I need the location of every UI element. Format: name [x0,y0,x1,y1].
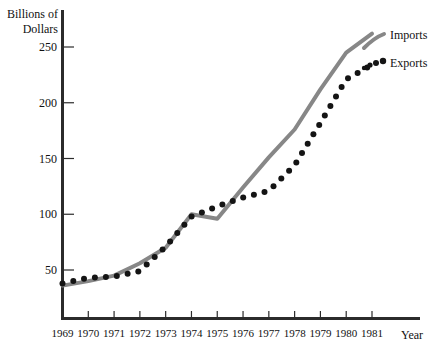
exports-data-dot [60,280,66,286]
exports-data-dot [262,189,268,195]
exports-data-dot [278,176,284,182]
exports-data-dot [174,230,180,236]
chart-container: Billions of Dollars 50100150200250 19691… [0,0,434,354]
x-axis-ticks: 1969197019711972197319741975197619771978… [52,311,384,339]
exports-data-dot [181,222,187,228]
y-tick-label: 150 [39,152,57,166]
legend-exports-dot-swatch [362,58,386,70]
x-tick-label: 1979 [309,327,332,339]
exports-data-dot [293,160,299,166]
exports-data-dot [160,247,166,253]
exports-data-dot [305,141,311,147]
exports-data-dot [271,183,277,189]
y-axis-title-line2: Dollars [23,22,59,36]
y-axis-title-line1: Billions of [7,7,58,21]
exports-data-dot [322,112,328,118]
exports-data-dot [103,274,109,280]
x-tick-label: 1980 [335,327,358,339]
exports-data-dot [251,192,257,198]
y-tick-label: 200 [39,96,57,110]
exports-data-dot [327,103,333,109]
exports-data-dot [286,168,292,174]
exports-data-dot [339,84,345,90]
exports-series-dots [60,65,371,287]
exports-data-dot [345,75,351,81]
exports-data-dot [81,276,87,282]
exports-data-dot [144,262,150,268]
exports-data-dot [299,150,305,156]
x-tick-label: 1976 [232,327,255,339]
x-tick-label: 1974 [180,327,203,339]
exports-data-dot [189,213,195,219]
exports-data-dot [135,269,141,275]
exports-data-dot [152,254,158,260]
exports-data-dot [114,273,120,279]
exports-data-dot [92,275,98,281]
legend-dot [367,62,372,67]
legend-dot [362,66,366,70]
x-tick-label: 1977 [258,327,281,339]
x-tick-label: 1978 [284,327,307,339]
x-tick-label: 1973 [155,327,178,339]
exports-data-dot [310,131,316,137]
x-axis-title: Year [401,328,423,342]
trade-line-chart: Billions of Dollars 50100150200250 19691… [0,0,434,354]
legend-dot [373,60,379,66]
exports-data-dot [230,198,236,204]
y-tick-label: 50 [45,263,57,277]
x-tick-label: 1969 [52,327,75,339]
exports-data-dot [240,195,246,201]
x-tick-label: 1970 [77,327,100,339]
exports-data-dot [199,209,205,215]
imports-series-line [63,34,373,286]
exports-data-dot [219,202,225,208]
exports-data-dot [125,271,131,277]
y-tick-label: 100 [39,207,57,221]
legend-exports-label: Exports [390,56,428,70]
legend-imports-label: Imports [390,28,428,42]
exports-data-dot [316,122,322,128]
exports-data-dot [167,238,173,244]
exports-data-dot [355,70,361,76]
y-tick-label: 250 [39,40,57,54]
x-tick-label: 1972 [129,327,151,339]
exports-data-dot [70,278,76,284]
exports-data-dot [209,205,215,211]
x-tick-label: 1975 [206,327,229,339]
x-tick-label: 1971 [103,327,125,339]
exports-data-dot [333,94,339,100]
legend-dot [380,58,386,64]
x-tick-label: 1981 [361,327,383,339]
y-axis-ticks: 50100150200250 [39,40,74,277]
